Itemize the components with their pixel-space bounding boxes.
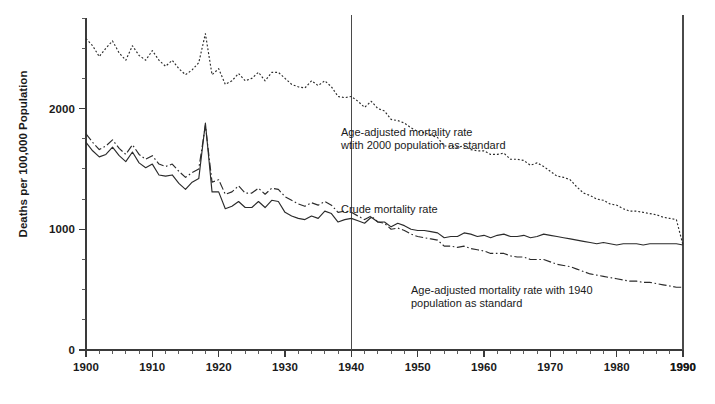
annotation-series-0: wtith 2000 population as standard xyxy=(340,139,506,151)
y-tick-label: 2000 xyxy=(49,103,75,115)
x-tick-label: 1900 xyxy=(73,361,99,373)
y-axis-title-text: Deaths per 100,000 Population xyxy=(17,71,29,238)
chart-svg: 1900191019201930194019501960197019801990… xyxy=(0,0,715,404)
annotation-series-2: Age-adjusted mortality rate with 1940 xyxy=(411,284,593,296)
series-annotations: Age-adjusted mortality ratewtith 2000 po… xyxy=(340,126,593,309)
y-axis-title: Deaths per 100,000 Population xyxy=(17,71,29,238)
x-tick-label: 1940 xyxy=(338,361,364,373)
x-tick-label: 1960 xyxy=(471,361,497,373)
x-tick-label: 1970 xyxy=(537,361,563,373)
x-tick-label: 1930 xyxy=(272,361,298,373)
annotation-series-2: population as standard xyxy=(411,297,522,309)
axis-ticks xyxy=(79,18,683,357)
y-tick-label: 1000 xyxy=(49,223,75,235)
x-tick-label: 1990 xyxy=(670,361,696,373)
x-tick-label: 1910 xyxy=(139,361,165,373)
mortality-rate-chart: 1900191019201930194019501960197019801990… xyxy=(0,0,715,404)
x-tick-label: 1980 xyxy=(604,361,630,373)
axes xyxy=(86,18,683,350)
data-series xyxy=(86,34,683,288)
y-tick-label: 0 xyxy=(69,344,76,356)
x-tick-label: 1920 xyxy=(206,361,232,373)
annotation-series-1: Crude mortality rate xyxy=(341,203,438,215)
x-tick-label: 1950 xyxy=(405,361,431,373)
annotation-series-0: Age-adjusted mortality rate xyxy=(341,126,472,138)
